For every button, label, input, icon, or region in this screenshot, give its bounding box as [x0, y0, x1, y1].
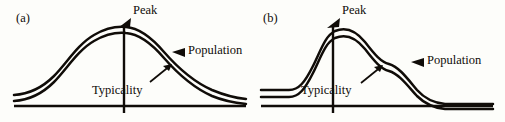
population-label-b: Population: [427, 54, 481, 67]
typicality-label-a: Typicality: [92, 84, 143, 97]
typicality-arrow-a: [150, 64, 172, 82]
population-label-a: Population: [188, 44, 242, 57]
population-curve-inner-b: [261, 36, 493, 109]
panel-label-a: (a): [16, 12, 30, 25]
peak-label-b: Peak: [342, 4, 366, 17]
peak-label-a: Peak: [133, 4, 157, 17]
typicality-arrow-b: [361, 65, 383, 83]
typicality-label-b: Typicality: [301, 84, 352, 97]
panel-b: (b) Peak Population Typicality: [253, 0, 505, 122]
population-arrow-b: [411, 58, 424, 67]
population-arrow-a: [172, 48, 185, 57]
figure-population-typicality: (a) Peak Population Typicality (b) P: [0, 0, 505, 122]
panel-a: (a) Peak Population Typicality: [0, 0, 252, 122]
panel-label-b: (b): [263, 12, 278, 25]
panel-a-plot: [0, 0, 252, 122]
peak-arrow-b: [327, 18, 340, 28]
